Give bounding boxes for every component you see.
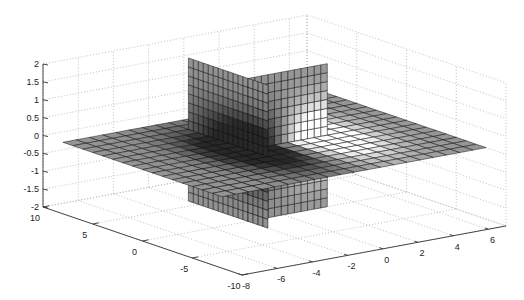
grid-line <box>192 209 456 258</box>
slice-cell <box>314 199 321 209</box>
x-tick-label: -6 <box>277 274 285 284</box>
slice-cell <box>281 196 288 206</box>
x-tick-label: 2 <box>419 248 424 258</box>
slice-cell <box>288 204 295 214</box>
z-tick-label: -2 <box>31 202 39 212</box>
slice-cell <box>288 88 295 98</box>
slice-cell <box>321 108 328 118</box>
y-tick-label: -10 <box>227 281 240 291</box>
y-tick <box>43 206 49 207</box>
slice-cell <box>294 203 301 213</box>
slice-cell <box>308 102 315 112</box>
slice-cell <box>301 85 308 95</box>
slice-cell <box>281 134 288 144</box>
grid-line <box>307 15 506 83</box>
slice-cell <box>275 117 282 127</box>
slice-cell <box>268 127 275 137</box>
slice-cell <box>321 73 328 83</box>
z-tick <box>43 189 48 190</box>
x-tick <box>485 228 489 229</box>
slice-cell <box>314 128 321 138</box>
slice-cell <box>263 84 268 95</box>
x-tick <box>274 267 278 268</box>
slice-cell <box>308 191 315 201</box>
slice-cell <box>233 73 238 84</box>
x-tick <box>239 274 243 275</box>
slice-cell <box>193 60 198 71</box>
slice-cell <box>268 100 275 110</box>
slice-cell <box>301 121 308 131</box>
z-tick-label: 0 <box>34 131 39 141</box>
slice-cell <box>321 117 328 127</box>
slice-cell <box>268 118 275 128</box>
slice-cell <box>314 74 321 84</box>
y-tick-label: 0 <box>132 247 137 257</box>
slice-cell <box>308 200 315 210</box>
z-tick <box>43 136 48 137</box>
slice-cell <box>308 84 315 94</box>
slice-cell <box>288 106 295 116</box>
x-tick <box>379 248 383 249</box>
x-tick-label: 0 <box>384 255 389 265</box>
slice-cell <box>288 132 295 142</box>
grid-line <box>43 15 307 64</box>
slice-cell <box>288 195 295 205</box>
slice-cell <box>314 101 321 111</box>
slice-cell <box>308 129 315 139</box>
y-tick <box>93 223 99 224</box>
z-tick-label: 0.5 <box>26 113 39 123</box>
slice-cell <box>294 113 301 123</box>
slice-cell <box>198 61 203 72</box>
slice-cell <box>314 181 321 191</box>
slice-cell <box>213 67 218 78</box>
z-tick <box>43 64 48 65</box>
slice-cell <box>281 98 288 108</box>
slice-cell <box>321 64 328 74</box>
slice-cell <box>281 116 288 126</box>
x-tick <box>309 261 313 262</box>
slice-cell <box>223 70 228 81</box>
slice-cell <box>314 119 321 129</box>
slice-cell <box>314 83 321 93</box>
slice-cell <box>321 126 328 136</box>
slice-cell <box>275 197 282 207</box>
y-tick-label: 5 <box>82 230 87 240</box>
slice-cell <box>294 131 301 141</box>
slice-cell <box>321 180 328 190</box>
slice-cell <box>301 67 308 77</box>
slice-cell <box>308 120 315 130</box>
slice-cell <box>275 126 282 136</box>
slice-cell <box>268 136 275 146</box>
slice-cell <box>275 99 282 109</box>
x-tick <box>415 241 419 242</box>
slice-cell <box>314 190 321 200</box>
slice-cell <box>275 188 282 198</box>
slice-cell <box>281 205 288 215</box>
slice-cell <box>275 135 282 145</box>
x-tick-label: 4 <box>455 242 460 252</box>
x-tick-label: -4 <box>312 268 320 278</box>
slice-cell <box>294 69 301 79</box>
slice-cell <box>281 80 288 90</box>
slice-cell <box>208 65 213 76</box>
slice-cell <box>321 91 328 101</box>
slice-cell <box>294 122 301 132</box>
slice-cell <box>268 74 275 84</box>
slice-cell <box>258 82 263 93</box>
slice-cell <box>294 194 301 204</box>
slice-cell <box>314 65 321 75</box>
slice-cell <box>301 76 308 86</box>
slice-cell <box>301 94 308 104</box>
slice-cell <box>253 80 258 91</box>
slice-cell <box>321 198 328 208</box>
z-tick-label: -1.5 <box>23 184 39 194</box>
slice-cell <box>301 184 308 194</box>
slice-cell <box>294 95 301 105</box>
slice-cell <box>281 187 288 197</box>
slice-cell <box>238 75 243 86</box>
slice-cell <box>275 206 282 216</box>
slice-cell <box>268 208 275 218</box>
x-tick <box>344 254 348 255</box>
slice-cell <box>243 77 248 88</box>
z-tick <box>43 171 48 172</box>
